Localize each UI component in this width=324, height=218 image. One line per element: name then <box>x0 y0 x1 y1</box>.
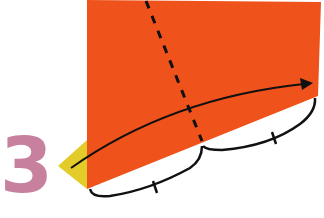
paper-back-flap <box>58 140 87 189</box>
step-number: 3 <box>0 128 51 204</box>
paper-front-shape <box>87 0 321 189</box>
origami-step-diagram: 3 <box>0 0 324 218</box>
